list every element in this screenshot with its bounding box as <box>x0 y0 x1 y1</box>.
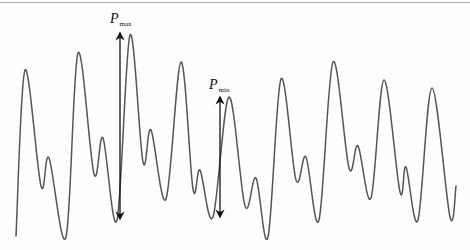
pmin-label: Pmin <box>209 78 229 94</box>
pmax-label: Pmax <box>110 12 132 28</box>
pmin-label-subscript: min <box>219 86 230 94</box>
pmin-label-main: P <box>209 77 218 92</box>
figure-canvas: Pmax Pmin <box>0 0 470 250</box>
pmax-label-main: P <box>110 11 119 26</box>
waveform-plot <box>0 0 470 250</box>
pressure-waveform-curve <box>16 34 456 239</box>
pmax-label-subscript: max <box>120 20 132 28</box>
